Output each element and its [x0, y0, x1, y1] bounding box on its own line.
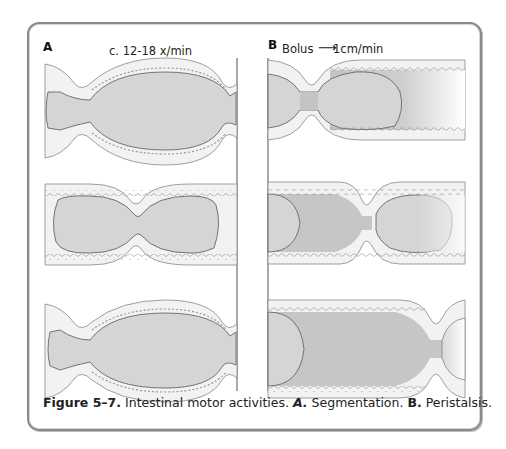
panel-b-row-3	[268, 300, 465, 398]
panel-a-row-2	[45, 184, 237, 265]
panel-a-row-3	[45, 300, 237, 402]
caption-a-label: A.	[293, 395, 308, 410]
panel-a-row-1	[45, 58, 237, 165]
caption-b-text: Peristalsis.	[422, 395, 492, 410]
figure-caption: Figure 5–7. Intestinal motor activities.…	[43, 395, 492, 410]
caption-b-label: B.	[407, 395, 421, 410]
caption-a-text: Segmentation.	[308, 395, 408, 410]
intestine-illustration	[0, 0, 506, 449]
caption-text: Intestinal motor activities.	[121, 395, 293, 410]
panel-b-row-1	[268, 60, 465, 140]
panel-b-row-2	[268, 182, 465, 264]
figure-number: Figure 5–7.	[43, 395, 121, 410]
